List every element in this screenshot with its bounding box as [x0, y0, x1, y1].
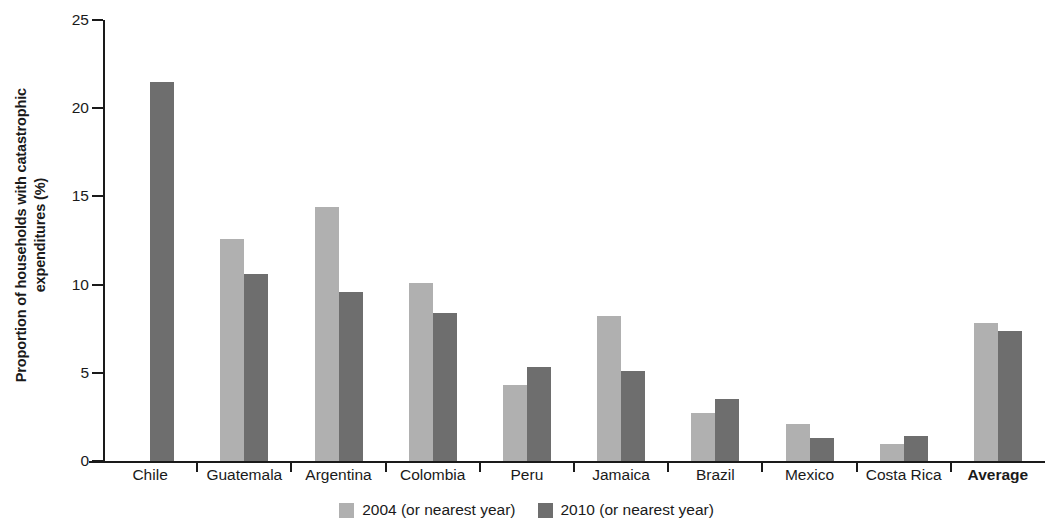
bar [998, 331, 1022, 461]
x-axis-tick-mark [196, 461, 198, 472]
chart-legend: 2004 (or nearest year)2010 (or nearest y… [0, 501, 1053, 519]
legend-label: 2004 (or nearest year) [362, 501, 515, 519]
x-axis-label: Argentina [305, 466, 371, 484]
bar-group [786, 20, 834, 461]
x-axis-tick-mark [761, 461, 763, 472]
bar [974, 323, 998, 461]
bar [503, 385, 527, 461]
y-axis-tick-label: 15 [49, 187, 89, 205]
bar-group [597, 20, 645, 461]
bar [433, 313, 457, 461]
x-axis-label: Brazil [696, 466, 735, 484]
bar [150, 82, 174, 461]
y-axis-tick-label: 10 [49, 276, 89, 294]
y-axis-line [103, 20, 105, 461]
bar [244, 274, 268, 461]
legend-label: 2010 (or nearest year) [561, 501, 714, 519]
plot-area: 0510152025 [103, 20, 1045, 461]
x-axis-label: Chile [132, 466, 167, 484]
y-axis-tick-labels: 0510152025 [45, 20, 89, 461]
y-axis-tick-mark [92, 107, 103, 109]
y-axis-tick-mark [92, 284, 103, 286]
bar [880, 444, 904, 461]
y-axis-tick-mark [92, 372, 103, 374]
y-axis-tick-label: 0 [49, 452, 89, 470]
bar [339, 292, 363, 461]
y-axis-tick-mark [92, 195, 103, 197]
bar [597, 316, 621, 461]
x-axis-label: Colombia [400, 466, 465, 484]
legend-item: 2010 (or nearest year) [538, 501, 714, 519]
y-axis-tick-label: 20 [49, 99, 89, 117]
x-axis-tick-mark [573, 461, 575, 472]
bar-group [409, 20, 457, 461]
y-axis-title-line-1: Proportion of households with catastroph… [13, 88, 29, 382]
y-axis-tick-mark [92, 460, 103, 462]
y-axis-tick-label: 25 [49, 11, 89, 29]
x-axis-label: Peru [511, 466, 544, 484]
bar-group [974, 20, 1022, 461]
legend-item: 2004 (or nearest year) [339, 501, 515, 519]
bar-group [503, 20, 551, 461]
x-axis-label: Average [968, 466, 1029, 484]
x-axis-tick-mark [385, 461, 387, 472]
bar [315, 207, 339, 461]
x-axis-label: Guatemala [206, 466, 282, 484]
bar [786, 424, 810, 461]
y-axis-tick-label: 5 [49, 364, 89, 382]
bar [220, 239, 244, 461]
legend-swatch [538, 503, 553, 518]
y-axis-tick-mark [92, 19, 103, 21]
x-axis-line [89, 461, 1045, 463]
x-axis-label: Costa Rica [866, 466, 942, 484]
chart-figure: Proportion of households with catastroph… [0, 0, 1053, 527]
bar [527, 367, 551, 461]
x-axis-tick-mark [479, 461, 481, 472]
bar [810, 438, 834, 461]
bar-group [691, 20, 739, 461]
x-axis-tick-mark [290, 461, 292, 472]
x-axis-label: Mexico [785, 466, 834, 484]
bar-group [315, 20, 363, 461]
bar [409, 283, 433, 461]
bar-group [220, 20, 268, 461]
x-axis-tick-mark [950, 461, 952, 472]
bar-group [880, 20, 928, 461]
bar [691, 413, 715, 461]
legend-swatch [339, 503, 354, 518]
x-axis-label: Jamaica [592, 466, 650, 484]
bar [715, 399, 739, 461]
x-axis-tick-mark [856, 461, 858, 472]
bar [904, 436, 928, 461]
x-axis-tick-mark [667, 461, 669, 472]
bar-group [126, 20, 174, 461]
bar [621, 371, 645, 461]
